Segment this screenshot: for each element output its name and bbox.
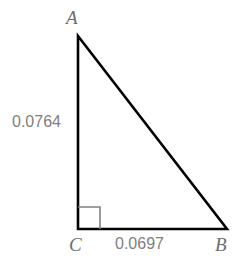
vertex-label-c: C (69, 235, 82, 254)
vertex-label-a: A (66, 8, 78, 27)
measurement-label-horizontal-leg: 0.0697 (115, 236, 164, 252)
triangle-shape (78, 36, 227, 229)
right-triangle-figure: A C B 0.0764 0.0697 (0, 0, 245, 276)
measurement-label-vertical-leg: 0.0764 (12, 114, 61, 130)
vertex-label-b: B (215, 235, 227, 254)
